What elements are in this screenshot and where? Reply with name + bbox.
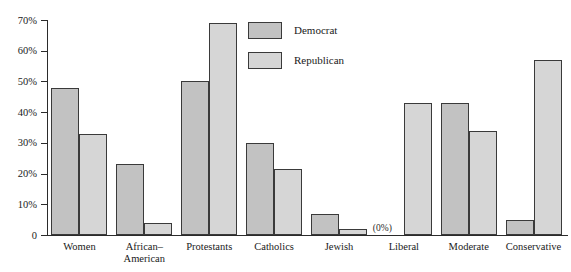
- bar: [506, 220, 534, 235]
- category-label-line: African–: [112, 241, 177, 253]
- bar-group: [501, 20, 566, 235]
- bar-group: [177, 20, 242, 235]
- y-tick-label: 20%: [18, 169, 37, 180]
- x-axis-line: [47, 235, 568, 236]
- bar: [311, 214, 339, 236]
- category-label-line: Protestants: [177, 241, 242, 253]
- bar-chart: 010%20%30%40%50%60%70% (0%) WomenAfrican…: [0, 0, 571, 272]
- bar: [441, 103, 469, 235]
- bar: [339, 229, 367, 235]
- category-label-line: American: [112, 253, 177, 265]
- bar: [181, 81, 209, 235]
- category-label: Catholics: [242, 241, 307, 253]
- legend-swatch-republican: [248, 52, 282, 69]
- bar: [79, 134, 107, 235]
- legend-label-republican: Republican: [294, 55, 344, 66]
- category-label: Conservative: [501, 241, 566, 253]
- y-tick-label: 10%: [18, 200, 37, 211]
- bar: [51, 88, 79, 235]
- bar-group: [112, 20, 177, 235]
- bar: [469, 131, 497, 235]
- y-tick-0: 0: [41, 235, 47, 236]
- category-label-line: Conservative: [501, 241, 566, 253]
- category-label: Liberal: [371, 241, 436, 253]
- bar: [209, 23, 237, 235]
- category-label-line: Moderate: [436, 241, 501, 253]
- category-label-line: Women: [47, 241, 112, 253]
- y-tick-label: 70%: [18, 15, 37, 26]
- y-tick-label: 40%: [18, 107, 37, 118]
- category-label: Moderate: [436, 241, 501, 253]
- bar: [246, 143, 274, 235]
- category-label: Jewish: [307, 241, 372, 253]
- bar: [116, 164, 144, 235]
- bar-group: [47, 20, 112, 235]
- bar: [144, 223, 172, 235]
- category-label-line: Liberal: [371, 241, 436, 253]
- category-label: African–American: [112, 241, 177, 264]
- legend-item-republican: Republican: [248, 48, 448, 72]
- y-tick-label: 50%: [18, 77, 37, 88]
- y-tick-label: 30%: [18, 138, 37, 149]
- zero-value-annotation: (0%): [373, 224, 392, 234]
- category-label-line: Jewish: [307, 241, 372, 253]
- bar: [404, 103, 432, 235]
- category-label: Protestants: [177, 241, 242, 253]
- legend-item-democrat: Democrat: [248, 18, 448, 42]
- category-label: Women: [47, 241, 112, 253]
- y-tick-label: 60%: [18, 46, 37, 57]
- legend: Democrat Republican: [248, 18, 448, 78]
- category-label-line: Catholics: [242, 241, 307, 253]
- y-tick-label: 0: [32, 230, 37, 241]
- legend-label-democrat: Democrat: [294, 25, 337, 36]
- bar: [534, 60, 562, 235]
- bar: [274, 169, 302, 235]
- legend-swatch-democrat: [248, 22, 282, 39]
